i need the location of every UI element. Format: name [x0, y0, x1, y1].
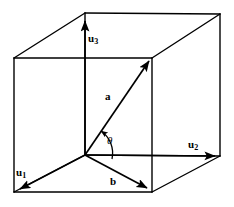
cube-edge-back-top — [85, 13, 220, 14]
cube-edge-depth-top-right — [152, 14, 220, 58]
cube-edge-depth-bottom-right — [152, 156, 220, 192]
vector-cube-figure: u1 u2 u3 a b θ — [0, 0, 234, 207]
label-a: a — [105, 91, 111, 102]
label-b: b — [110, 176, 116, 187]
label-theta: θ — [107, 135, 112, 146]
vector-arrow-u2 — [85, 155, 215, 156]
figure-canvas — [0, 0, 234, 207]
vector-arrow-u1 — [20, 155, 85, 189]
cube-wireframe — [14, 13, 220, 192]
label-u2: u2 — [188, 139, 198, 152]
vector-arrows — [20, 21, 215, 189]
label-u3: u3 — [88, 33, 98, 46]
vector-arrow-a — [85, 61, 149, 155]
cube-edge-depth-top-left — [14, 13, 85, 58]
label-u1: u1 — [16, 167, 26, 180]
